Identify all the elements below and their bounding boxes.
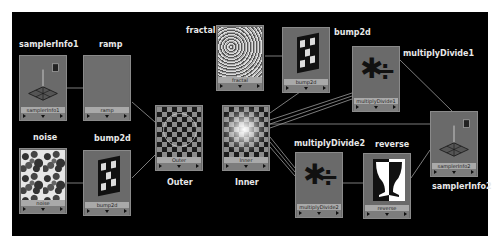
node-fractal[interactable]: fractal [216,25,264,91]
output-port-icon[interactable] [404,212,407,216]
input-port-icon[interactable] [286,86,289,90]
expand-arrow-icon[interactable] [374,106,378,109]
expand-arrow-icon[interactable] [41,208,45,211]
node-inner[interactable]: Inner [222,105,270,171]
node-title-outer: Outer [167,178,193,187]
fractal-texture [218,27,262,77]
output-port-icon[interactable] [323,86,326,90]
node-reverse[interactable]: reverse [363,153,411,219]
expand-arrow-icon[interactable] [385,213,389,216]
node-title-bump2d-bottom: bump2d [94,134,131,143]
multiply-divide-icon: ✱÷ [303,164,339,194]
node-ports [284,85,328,92]
node-outer[interactable]: Outer [155,105,203,171]
input-port-icon[interactable] [23,114,26,118]
bump-map-icon [297,33,319,74]
node-ports [85,113,129,120]
ring-highlight [163,113,197,147]
multiplydivide-swatch: ✱÷ [354,48,398,98]
input-port-icon[interactable] [87,114,90,118]
noise-texture [21,150,65,200]
node-multiplydivide2[interactable]: ✱÷ multiplyDivide2 [295,152,343,218]
fractal-swatch [218,27,262,77]
input-port-icon[interactable] [220,84,223,88]
multiplydivide-swatch: ✱÷ [297,154,341,204]
input-port-icon[interactable] [367,212,370,216]
input-port-icon[interactable] [87,209,90,213]
input-port-icon[interactable] [434,170,437,174]
node-samplerinfo1[interactable]: samplerInfo1 [19,55,67,121]
node-ports [157,163,201,170]
node-ports [432,169,476,176]
samplerinfo-swatch [21,57,65,107]
inner-swatch [224,107,268,157]
expand-arrow-icon[interactable] [452,171,456,174]
node-title-multiplydivide2: multiplyDivide2 [294,139,365,148]
reverse-goblet-icon [373,159,405,201]
expand-arrow-icon[interactable] [105,115,109,118]
bump-map-icon [98,156,120,197]
expand-arrow-icon[interactable] [304,87,308,90]
node-ports [218,83,262,90]
node-multiplydivide1[interactable]: ✱÷ multiplyDivide1 [352,46,400,112]
output-port-icon[interactable] [471,170,474,174]
node-bump2d-top[interactable]: bump2d [282,27,330,93]
output-port-icon[interactable] [263,164,266,168]
node-bump2d-bottom[interactable]: bump2d [83,150,131,216]
output-port-icon[interactable] [60,207,63,211]
output-port-icon[interactable] [60,114,63,118]
expand-arrow-icon[interactable] [317,212,321,215]
noise-swatch [21,150,65,200]
node-ramp[interactable]: ramp [83,55,131,121]
node-title-reverse: reverse [375,140,409,149]
bump2d-swatch [284,29,328,79]
node-ports [354,104,398,111]
output-port-icon[interactable] [336,211,339,215]
expand-arrow-icon[interactable] [105,210,109,213]
input-port-icon[interactable] [226,164,229,168]
input-port-icon[interactable] [23,207,26,211]
samplerinfo-swatch [432,113,476,163]
node-ports [224,163,268,170]
output-port-icon[interactable] [124,209,127,213]
bump2d-swatch [85,152,129,202]
outer-swatch [157,107,201,157]
node-title-fractal: fractal [186,26,216,35]
node-ports [21,113,65,120]
glow-highlight [224,107,268,157]
multiply-divide-icon: ✱÷ [360,58,396,88]
node-title-noise: noise [33,133,57,142]
output-port-icon[interactable] [196,164,199,168]
output-port-icon[interactable] [393,105,396,109]
node-ports [21,206,65,213]
node-ports [85,208,129,215]
node-title-samplerinfo2: samplerInfo2 [432,182,492,191]
ramp-swatch [85,57,129,107]
sampler-grid-icon [21,57,65,107]
expand-arrow-icon[interactable] [244,165,248,168]
node-noise[interactable]: noise [19,148,67,214]
reverse-swatch [365,155,409,205]
expand-arrow-icon[interactable] [177,165,181,168]
node-title-multiplydivide1: multiplyDivide1 [403,49,474,58]
expand-arrow-icon[interactable] [238,85,242,88]
node-samplerinfo2[interactable]: samplerInfo2 [430,111,478,177]
output-port-icon[interactable] [124,114,127,118]
input-port-icon[interactable] [159,164,162,168]
node-ports [365,211,409,218]
input-port-icon[interactable] [299,211,302,215]
node-title-samplerinfo1: samplerInfo1 [19,40,79,49]
node-ports [297,210,341,217]
node-title-bump2d-top: bump2d [334,28,371,37]
output-port-icon[interactable] [257,84,260,88]
expand-arrow-icon[interactable] [41,115,45,118]
input-port-icon[interactable] [356,105,359,109]
node-title-ramp: ramp [99,40,122,49]
sampler-grid-icon [432,113,476,163]
node-title-inner: Inner [235,178,259,187]
